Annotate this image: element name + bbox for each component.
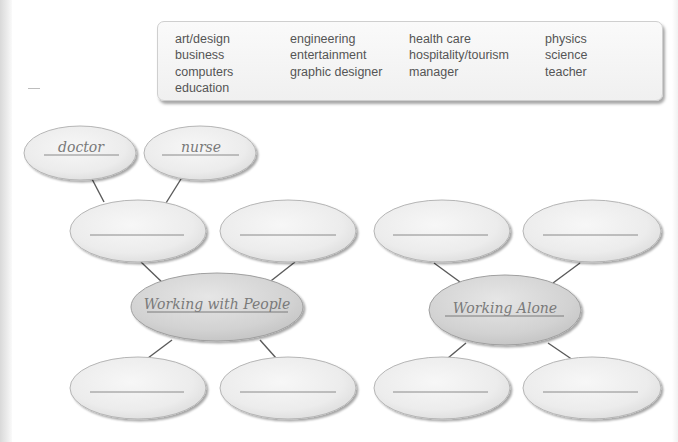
example-bubble-nurse: nurse	[144, 126, 256, 180]
center-bubble-working-alone: Working Alone	[429, 275, 581, 345]
center-bubble-working-with-people: Working with People	[131, 273, 303, 341]
example-answer-text: nurse	[181, 139, 221, 155]
branch-bubble[interactable]	[220, 200, 356, 262]
branch-bubble[interactable]	[70, 357, 206, 419]
branch-bubble[interactable]	[220, 357, 356, 419]
branch-bubble[interactable]	[374, 357, 510, 419]
center-label: Working with People	[144, 296, 291, 312]
word-web-diagram: doctor nurse Working with People	[0, 0, 678, 442]
branch-bubble[interactable]	[523, 200, 661, 262]
branch-bubble[interactable]	[70, 200, 206, 262]
example-answer-text: doctor	[58, 139, 105, 155]
branch-bubble[interactable]	[374, 200, 510, 262]
branch-bubble[interactable]	[523, 357, 661, 419]
example-bubble-doctor: doctor	[24, 126, 136, 180]
center-label: Working Alone	[453, 300, 557, 316]
